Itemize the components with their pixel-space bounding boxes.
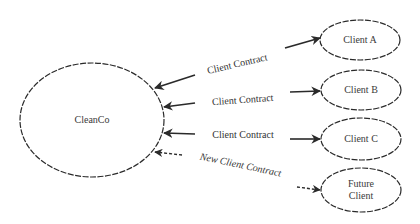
node-client-a-label: Client A [343, 34, 377, 45]
node-future-client-label-line2: Client [349, 190, 374, 201]
edge-future-client: New Client Contract [155, 150, 320, 190]
arrow-to-client-b-icon [290, 91, 320, 92]
edge-client-a-label: Client Contract [206, 51, 268, 76]
arrow-to-client-a-icon [285, 38, 320, 48]
node-client-c-label: Client C [344, 133, 378, 144]
arrow-to-cleanco-icon [164, 133, 195, 134]
edge-client-a: Client Contract [155, 38, 320, 88]
node-client-a: Client A [320, 20, 400, 60]
node-client-b: Client B [321, 70, 401, 110]
edge-client-c: Client Contract [164, 129, 320, 140]
node-cleanco-label: CleanCo [75, 114, 110, 125]
node-cleanco: CleanCo [20, 63, 164, 177]
arrow-to-future-client-icon [297, 187, 320, 190]
arrow-to-cleanco-icon [164, 103, 195, 107]
edge-client-c-label: Client Contract [212, 129, 274, 140]
node-client-b-label: Client B [344, 84, 378, 95]
edge-client-b-label: Client Contract [212, 92, 274, 107]
arrow-to-cleanco-icon [155, 152, 182, 155]
contract-diagram: CleanCo Client A Client B Client C Futur… [0, 0, 420, 224]
node-future-client-label-line1: Future [348, 178, 375, 189]
node-future-client: Future Client [321, 168, 401, 212]
edge-future-client-label: New Client Contract [198, 150, 282, 178]
arrow-to-cleanco-icon [155, 75, 195, 88]
edge-client-b: Client Contract [164, 91, 320, 107]
node-client-c: Client C [321, 118, 401, 160]
